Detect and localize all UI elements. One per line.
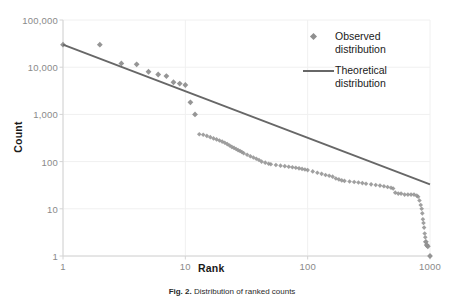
- figure-caption-text: Distribution of ranked counts: [194, 287, 295, 296]
- chart-legend: Observeddistribution Theoreticaldistribu…: [303, 30, 453, 98]
- x-tick-label: 10: [180, 261, 191, 272]
- legend-item-observed: Observeddistribution: [303, 30, 453, 55]
- figure-caption-label: Fig. 2.: [169, 287, 192, 296]
- legend-marker-line-icon: [303, 64, 335, 77]
- x-tick-label: 100: [299, 261, 315, 272]
- legend-label-observed: Observeddistribution: [335, 30, 386, 55]
- legend-marker-diamond-icon: [303, 30, 335, 43]
- x-axis-title: Rank: [198, 262, 224, 274]
- legend-label-theoretical: Theoreticaldistribution: [335, 64, 387, 89]
- x-tick-label: 1000: [419, 261, 441, 272]
- figure-caption: Fig. 2. Distribution of ranked counts: [0, 287, 464, 296]
- figure-rank-count-distribution: 100,00010,0001,000100101 1101001000 Coun…: [0, 0, 464, 297]
- x-tick-label: 1: [60, 261, 65, 272]
- y-axis-title: Count: [12, 102, 24, 172]
- legend-item-theoretical: Theoreticaldistribution: [303, 64, 453, 89]
